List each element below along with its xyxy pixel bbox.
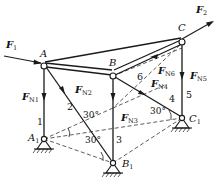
member-number-5: 5 xyxy=(186,89,192,100)
label-node-a: A xyxy=(39,48,47,59)
angle-arc-c1 xyxy=(169,110,171,120)
force-fn5-arrowhead xyxy=(180,72,185,80)
bar-a-b-2 xyxy=(46,67,112,75)
label-node-b: B xyxy=(108,57,116,68)
label-force-fn2: FN2 xyxy=(74,84,92,97)
label-node-a1: A1 xyxy=(27,132,39,145)
member-number-3: 3 xyxy=(116,134,122,145)
label-node-c: C xyxy=(178,22,186,33)
ground-line-a1-b1 xyxy=(44,139,113,163)
member-2 xyxy=(46,67,111,160)
pin-b xyxy=(110,73,116,79)
pin-a xyxy=(41,63,47,69)
force-fn1-arrowhead xyxy=(42,93,47,101)
label-force-f2: F2 xyxy=(195,4,207,17)
member-number-1: 1 xyxy=(37,116,43,127)
force-f1-arrowhead xyxy=(34,60,43,65)
support-b1 xyxy=(102,160,123,177)
member-number-2: 2 xyxy=(67,101,73,112)
bar-a-b-1 xyxy=(45,63,112,70)
label-force-fn6: FN6 xyxy=(157,65,175,78)
label-force-fn5: FN5 xyxy=(189,70,207,83)
force-fn3-arrowhead xyxy=(111,93,116,101)
force-fn4-arrowhead xyxy=(138,90,146,95)
truss-diagram: A B C A1 B1 C1 F1 F2 FN1 FN2 FN3 FN4 FN5… xyxy=(0,0,220,179)
label-force-f1: F1 xyxy=(5,39,17,52)
label-node-b1: B1 xyxy=(121,158,134,171)
angle-label-1: 30° xyxy=(83,110,99,120)
label-node-c1: C1 xyxy=(189,113,201,126)
angle-arc-b1 xyxy=(101,152,103,161)
label-force-fn3: FN3 xyxy=(120,112,138,125)
ground-line-b1-c1 xyxy=(113,118,182,163)
force-f2-arrowhead xyxy=(206,21,214,27)
label-force-fn4: FN4 xyxy=(150,78,168,91)
member-number-6: 6 xyxy=(137,71,143,82)
angle-arc-a1-upper xyxy=(68,128,70,137)
member-number-4: 4 xyxy=(169,93,175,104)
angle-label-2: 30° xyxy=(85,135,101,145)
pin-c xyxy=(179,39,185,45)
angle-label-3: 30° xyxy=(150,106,166,116)
label-force-fn1: FN1 xyxy=(21,91,39,104)
